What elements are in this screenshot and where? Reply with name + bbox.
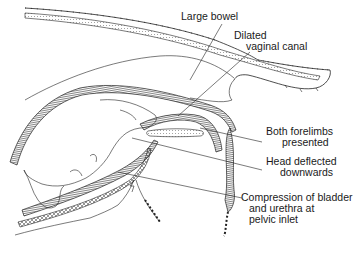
perineum-lines bbox=[130, 180, 160, 222]
label-head-line-2: downwards bbox=[280, 167, 337, 178]
leader-head bbox=[132, 138, 262, 170]
label-large-bowel-line-1: Large bowel bbox=[181, 10, 238, 22]
label-large-bowel: Large bowel bbox=[181, 11, 238, 22]
leader-bladder bbox=[118, 172, 242, 198]
anatomical-diagram: Large bowel Dilated vaginal canal Both f… bbox=[0, 0, 358, 257]
label-forelimbs-line-2: presented bbox=[282, 137, 333, 148]
label-dilated-vaginal-canal: Dilated vaginal canal bbox=[234, 30, 307, 52]
vulva-flap bbox=[224, 212, 228, 236]
label-both-forelimbs: Both forelimbs presented bbox=[266, 126, 333, 148]
label-bladder-line-3: pelvic inlet bbox=[249, 214, 352, 225]
label-head-deflected: Head deflected downwards bbox=[266, 156, 337, 178]
label-vaginal-canal-line-2: vaginal canal bbox=[246, 41, 307, 52]
label-compression-bladder: Compression of bladder and urethra at pe… bbox=[241, 192, 352, 225]
forelimbs bbox=[147, 129, 204, 137]
large-bowel-outline bbox=[25, 56, 234, 102]
tail bbox=[234, 70, 330, 92]
